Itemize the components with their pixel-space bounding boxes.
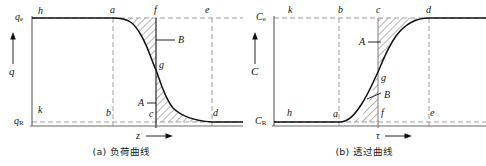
point-label-k: k	[38, 105, 42, 115]
point-label-e: e	[205, 5, 209, 15]
point-label-c: c	[376, 5, 380, 15]
x-axis-arrow	[146, 133, 173, 139]
point-label-d: d	[213, 108, 218, 118]
panel-b-caption: (b) 透过曲线	[243, 144, 486, 158]
point-label-b: b	[338, 5, 343, 15]
y-axis-arrow	[252, 32, 258, 64]
axis-label-z: z	[136, 130, 140, 141]
panel-b-plot	[243, 0, 486, 166]
panel-loading-curve: qe qR q z h a f e B g A k b c d (a) 负荷曲线	[0, 0, 243, 166]
point-label-f: f	[154, 5, 157, 15]
axis-label-C: C	[251, 66, 258, 77]
shaded-area-A	[152, 66, 216, 126]
point-label-g: g	[381, 73, 386, 83]
point-label-a: a	[110, 5, 115, 15]
tick-label-qr: qR	[14, 116, 24, 127]
point-label-h: h	[287, 108, 292, 118]
panel-a-caption: (a) 负荷曲线	[0, 144, 243, 158]
axis-label-tau: τ	[376, 130, 380, 141]
point-label-e: e	[430, 108, 434, 118]
y-axis-arrow	[10, 32, 16, 64]
tick-label-qe: qe	[15, 12, 23, 23]
point-label-a: a	[333, 109, 338, 119]
tick-label-ce: Ce	[256, 12, 266, 23]
shaded-area-A	[373, 14, 433, 76]
area-label-B: B	[384, 90, 390, 100]
point-label-d: d	[426, 5, 431, 15]
figure-root: qe qR q z h a f e B g A k b c d (a) 负荷曲线	[0, 0, 486, 166]
point-label-c: c	[149, 109, 153, 119]
point-label-k: k	[288, 5, 292, 15]
axis-label-q: q	[9, 66, 15, 77]
point-label-b: b	[106, 108, 111, 118]
x-axis-arrow	[385, 133, 412, 139]
area-label-A: A	[359, 37, 365, 47]
panel-a-plot	[0, 0, 243, 166]
area-label-B: B	[178, 35, 184, 45]
point-label-f: f	[381, 108, 384, 118]
area-label-A: A	[138, 98, 144, 108]
tick-label-cr: CR	[255, 116, 266, 127]
point-label-h: h	[38, 6, 43, 16]
point-label-g: g	[159, 60, 164, 70]
panel-breakthrough-curve: Ce CR C τ k b c d A g B h a f e (b) 透过曲线	[243, 0, 486, 166]
